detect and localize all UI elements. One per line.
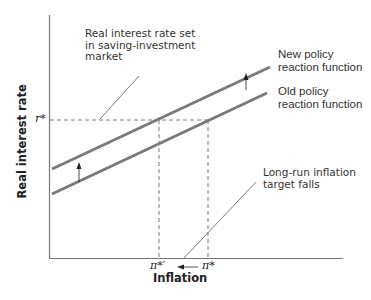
callout-saving-investment: Real interest rate set in saving-investm… <box>85 28 205 63</box>
x-axis-title: Inflation <box>153 272 207 285</box>
callout-inflation-target: Long-run inflation target falls <box>263 167 371 190</box>
pi-star-tick-label: π* <box>202 260 215 272</box>
old-policy-label: Old policy reaction function <box>278 85 371 110</box>
label-line: reaction function <box>278 98 371 111</box>
new-policy-reaction-line <box>52 67 270 169</box>
label-line: reaction function <box>278 61 371 74</box>
pi-star-prime-tick-label: π*′ <box>150 260 165 272</box>
callout-line: target falls <box>263 179 371 191</box>
callout-leader-inflation-target <box>184 182 256 258</box>
label-line: New policy <box>278 48 371 61</box>
new-policy-label: New policy reaction function <box>278 48 371 73</box>
policy-reaction-diagram: Real interest rate set in saving-investm… <box>0 0 371 300</box>
shift-up-arrow-icon <box>244 73 249 90</box>
callout-line: Long-run inflation <box>263 167 371 179</box>
old-policy-reaction-line <box>52 93 267 194</box>
callout-leader-saving-investment <box>100 76 139 119</box>
r-star-tick-label: r* <box>35 113 46 125</box>
inflation-target-shift-left-arrow-icon <box>177 265 198 270</box>
callout-line: Real interest rate set <box>85 28 205 40</box>
label-line: Old policy <box>278 85 371 98</box>
y-axis-title: Real interest rate <box>16 81 29 201</box>
callout-line: market <box>85 51 205 63</box>
